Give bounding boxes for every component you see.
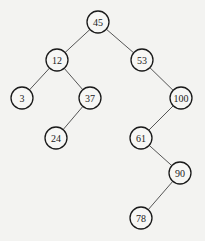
edge-90-78 <box>148 181 173 209</box>
edge-12-3 <box>29 68 49 90</box>
tree-node-78: 78 <box>130 207 152 229</box>
edge-100-61 <box>149 106 173 130</box>
edge-45-12 <box>65 29 90 52</box>
tree-node-100: 100 <box>170 87 192 109</box>
node-label: 3 <box>20 93 25 104</box>
edge-37-24 <box>63 106 83 129</box>
nodes-layer: 45125333710024619078 <box>11 11 192 229</box>
node-label: 45 <box>93 17 103 28</box>
tree-node-12: 12 <box>46 49 68 71</box>
tree-node-45: 45 <box>87 11 109 33</box>
node-label: 78 <box>136 213 146 224</box>
tree-diagram: 45125333710024619078 <box>0 0 205 241</box>
node-label: 100 <box>174 93 189 104</box>
edge-53-100 <box>150 68 173 91</box>
tree-node-3: 3 <box>11 87 33 109</box>
tree-node-90: 90 <box>169 162 191 184</box>
node-label: 12 <box>52 55 62 66</box>
edge-61-90 <box>149 145 172 165</box>
node-label: 53 <box>137 55 147 66</box>
tree-node-24: 24 <box>45 127 67 149</box>
tree-node-61: 61 <box>130 127 152 149</box>
edge-45-53 <box>106 29 133 53</box>
tree-node-53: 53 <box>131 49 153 71</box>
node-label: 24 <box>51 133 61 144</box>
tree-node-37: 37 <box>79 87 101 109</box>
node-label: 37 <box>85 93 95 104</box>
edge-12-37 <box>64 68 83 89</box>
node-label: 61 <box>136 133 146 144</box>
node-label: 90 <box>175 168 185 179</box>
